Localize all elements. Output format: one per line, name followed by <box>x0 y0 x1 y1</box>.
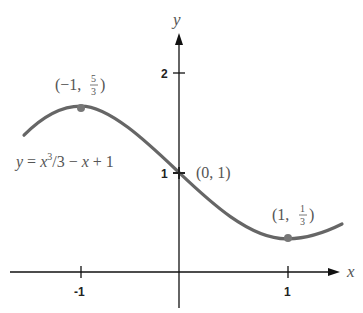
equation-label: y = x3/3 − x + 1 <box>14 151 114 171</box>
svg-text:3: 3 <box>91 86 96 97</box>
min-point-marker <box>284 234 292 242</box>
y-axis-arrow-icon <box>175 33 183 45</box>
min-point-label: (1, 1 3 ) <box>272 203 314 227</box>
x-axis-label: x <box>346 262 355 281</box>
svg-text:(−1,: (−1, <box>55 76 81 94</box>
max-point-marker <box>77 104 85 112</box>
x-axis-arrow-icon <box>328 268 340 276</box>
y-tick-label-2: 2 <box>161 67 168 81</box>
function-graph: x y -1 1 1 2 (−1, 5 3 ) (0, 1) (1, 1 3 )… <box>0 0 363 313</box>
max-point-label: (−1, 5 3 ) <box>55 73 105 97</box>
x-tick-label-1: 1 <box>284 285 291 299</box>
origin-point-label: (0, 1) <box>196 164 231 182</box>
svg-text:1: 1 <box>300 203 305 214</box>
svg-text:): ) <box>100 76 105 94</box>
svg-text:(1,: (1, <box>272 206 289 224</box>
x-tick-label-neg1: -1 <box>74 285 85 299</box>
y-tick-label-1: 1 <box>161 167 168 181</box>
svg-text:5: 5 <box>91 73 96 84</box>
y-axis-label: y <box>171 10 181 29</box>
svg-text:): ) <box>309 206 314 224</box>
svg-text:3: 3 <box>300 216 305 227</box>
